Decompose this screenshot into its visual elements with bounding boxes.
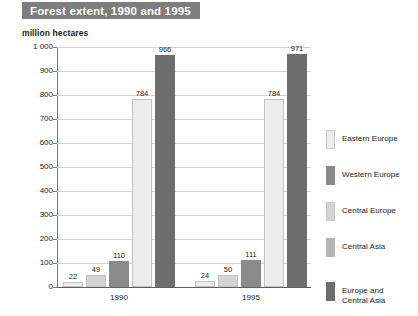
y-tick-label-1000: 1 000 [7, 42, 53, 51]
legend-label: Western Europe [342, 166, 400, 180]
bar-value-label: 50 [212, 265, 244, 274]
bar-1990-central-asia [132, 99, 152, 287]
y-tick-label-300: 300 [7, 210, 53, 219]
legend-label: Central Europe [342, 202, 396, 216]
x-axis-label-1990: 1990 [53, 293, 185, 302]
bar-1995-europe-and-central-asia [287, 54, 307, 287]
gridline-900 [57, 71, 311, 72]
legend-swatch [326, 202, 335, 221]
gridline-1000 [57, 47, 311, 48]
legend-label: Europe and Central Asia [342, 282, 385, 305]
bar-1995-western-europe [218, 275, 238, 287]
bar-value-label: 111 [235, 250, 267, 259]
legend-swatch [326, 130, 335, 149]
legend-item-western-europe[interactable]: Western Europe [326, 166, 400, 185]
y-tick-label-0: 0 [7, 282, 53, 291]
bar-1995-central-asia [264, 99, 284, 287]
bar-1990-europe-and-central-asia [155, 55, 175, 287]
y-tick-label-800: 800 [7, 90, 53, 99]
x-axis-label-1995: 1995 [185, 293, 317, 302]
bar-value-label: 966 [149, 45, 181, 54]
legend-swatch [326, 282, 335, 301]
bar-1990-western-europe [86, 275, 106, 287]
chart-title: Forest extent, 1990 and 1995 [30, 5, 191, 17]
bar-value-label: 784 [258, 89, 290, 98]
legend-label: Eastern Europe [342, 130, 398, 144]
gridline-0 [57, 287, 311, 288]
y-tick-label-700: 700 [7, 114, 53, 123]
y-tick-label-200: 200 [7, 234, 53, 243]
legend-swatch [326, 238, 335, 257]
legend-item-europe-and-central-asia[interactable]: Europe and Central Asia [326, 282, 385, 305]
bar-value-label: 971 [281, 44, 313, 53]
bar-value-label: 784 [126, 89, 158, 98]
y-tick-label-500: 500 [7, 162, 53, 171]
y-axis-unit-label: million hectares [22, 28, 88, 38]
y-tick-label-400: 400 [7, 186, 53, 195]
y-tick-label-100: 100 [7, 258, 53, 267]
y-tick-label-900: 900 [7, 66, 53, 75]
bar-1995-central-europe [241, 260, 261, 287]
bar-value-label: 49 [80, 265, 112, 274]
y-tick-label-600: 600 [7, 138, 53, 147]
legend-item-central-europe[interactable]: Central Europe [326, 202, 396, 221]
bar-1995-eastern-europe [195, 281, 215, 287]
chart-title-banner: Forest extent, 1990 and 1995 [22, 2, 200, 19]
legend-item-central-asia[interactable]: Central Asia [326, 238, 385, 257]
bar-value-label: 110 [103, 251, 135, 260]
bar-1990-eastern-europe [63, 282, 83, 287]
y-axis-tick-labels: 1 0009008007006005004003002001000 [0, 47, 53, 287]
bar-1990-central-europe [109, 261, 129, 287]
legend-item-eastern-europe[interactable]: Eastern Europe [326, 130, 398, 149]
legend-swatch [326, 166, 335, 185]
legend-label: Central Asia [342, 238, 385, 252]
plot-area: 22491107849662450111784971 [57, 47, 311, 287]
